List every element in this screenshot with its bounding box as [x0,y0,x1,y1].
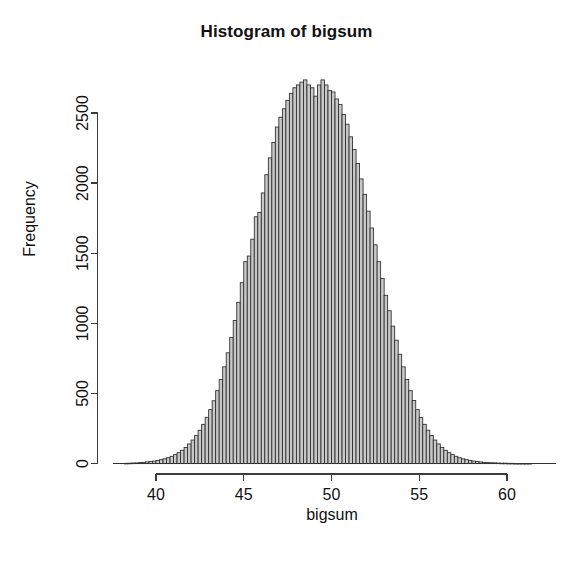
histogram-bars [124,80,531,464]
x-axis: 4045505560 [147,474,516,503]
histogram-bar [465,460,469,464]
histogram-bar [272,142,276,463]
histogram-bar [374,245,378,464]
histogram-bar [335,99,339,464]
y-axis-tick-label: 1500 [74,235,91,271]
histogram-plot: Histogram of bigsum Frequency bigsum 050… [0,0,573,562]
histogram-bar [296,85,300,464]
histogram-bar [423,424,427,463]
histogram-bar [405,379,409,463]
plot-canvas: 05001000150020002500 4045505560 [0,0,573,562]
histogram-bar [402,367,406,464]
histogram-bar [303,80,307,464]
histogram-bar [188,444,192,464]
y-axis-tick-label: 2000 [74,165,91,201]
x-axis-tick-label: 60 [498,486,516,503]
histogram-bar [440,447,444,463]
histogram-bar [289,93,293,463]
histogram-bar [412,400,416,463]
histogram-bar [433,440,437,464]
x-axis-tick-label: 40 [147,486,165,503]
histogram-bar [321,80,325,464]
histogram-bar [451,455,455,464]
histogram-bar [300,82,304,463]
histogram-bar [244,262,248,464]
histogram-bar [419,417,423,463]
histogram-bar [163,459,167,464]
histogram-bar [395,340,399,463]
histogram-bar [170,456,174,463]
histogram-bar [310,88,314,464]
y-axis: 05001000150020002500 [74,95,98,468]
histogram-bar [265,175,269,464]
histogram-bar [458,458,462,464]
histogram-bar [307,85,311,464]
histogram-bar [342,114,346,463]
histogram-bar [198,430,202,463]
histogram-bar [286,100,290,463]
histogram-bar [212,401,216,464]
histogram-bar [324,85,328,464]
histogram-bar [398,354,402,463]
histogram-bar [219,379,223,463]
histogram-bar [230,337,234,463]
histogram-bar [391,326,395,463]
y-axis-tick-label: 1000 [74,305,91,341]
histogram-bar [381,278,385,463]
histogram-bar [447,453,451,464]
histogram-bar [388,311,392,464]
histogram-bar [346,124,350,463]
histogram-bar [317,85,321,464]
histogram-bar [240,283,244,464]
histogram-bar [223,367,227,464]
histogram-bar [268,158,272,464]
histogram-bar [426,430,430,463]
histogram-bar [314,96,318,463]
y-axis-tick-label: 500 [74,380,91,407]
y-axis-tick-label: 0 [74,459,91,468]
histogram-bar [360,179,364,464]
histogram-bar [205,417,209,463]
histogram-bar [177,453,181,464]
x-axis-tick-label: 50 [323,486,341,503]
histogram-bar [437,444,441,464]
histogram-bar [258,213,262,464]
histogram-bar [247,256,251,464]
histogram-bar [233,321,237,464]
histogram-bar [261,193,265,464]
histogram-bar [353,149,357,463]
histogram-bar [356,163,360,463]
histogram-bar [181,450,185,463]
histogram-bar [367,211,371,463]
histogram-bar [430,436,434,464]
histogram-bar [191,440,195,464]
histogram-bar [279,117,283,463]
histogram-bar [251,239,255,463]
histogram-bar [254,217,258,464]
histogram-bar [454,456,458,463]
x-axis-tick-label: 55 [410,486,428,503]
histogram-bar [160,460,164,464]
histogram-bar [209,410,213,464]
histogram-bar [377,262,381,464]
histogram-bar [282,109,286,464]
histogram-bar [349,137,353,464]
histogram-bar [409,391,413,464]
x-axis-tick-label: 45 [235,486,253,503]
histogram-bar [195,436,199,464]
histogram-bar [370,228,374,464]
histogram-bar [184,447,188,463]
histogram-bar [237,302,241,463]
histogram-bar [461,459,465,464]
histogram-bar [332,92,336,464]
histogram-bar [174,455,178,464]
histogram-bar [226,353,230,464]
y-axis-tick-label: 2500 [74,95,91,131]
histogram-bar [202,424,206,463]
histogram-bar [339,105,343,464]
histogram-bar [363,194,367,463]
histogram-bar [416,410,420,464]
histogram-bar [275,127,279,464]
histogram-bar [167,458,171,464]
histogram-bar [384,295,388,463]
